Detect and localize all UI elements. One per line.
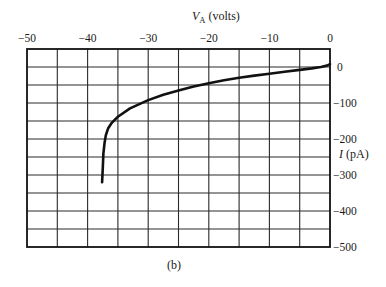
y-axis-label: I (pA) <box>338 147 369 161</box>
y-tick-label: −300 <box>333 169 357 181</box>
figure-caption: (b) <box>167 258 181 272</box>
series-line <box>102 64 330 182</box>
y-tick-label: −400 <box>333 205 357 217</box>
x-tick-label: −30 <box>139 32 157 44</box>
x-tick-label: −20 <box>200 32 218 44</box>
x-tick-labels: −50−40−30−20−100 <box>18 32 333 44</box>
series-layer <box>102 64 330 182</box>
x-tick-label: −40 <box>79 32 97 44</box>
y-tick-label: −100 <box>333 97 357 109</box>
x-axis-label: VA (volts) <box>192 9 240 25</box>
y-tick-label: 0 <box>337 61 343 73</box>
x-tick-label: −10 <box>260 32 278 44</box>
y-tick-label: −500 <box>333 241 357 253</box>
grid <box>27 49 330 247</box>
y-tick-label: −200 <box>333 133 357 145</box>
x-tick-label: 0 <box>327 32 333 44</box>
x-tick-label: −50 <box>18 32 36 44</box>
iv-chart: −50−40−30−20−100 0−100−200−300−400−500 V… <box>0 0 386 287</box>
